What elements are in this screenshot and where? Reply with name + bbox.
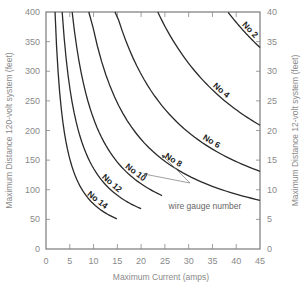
y-tick-label: 0 xyxy=(35,244,40,254)
y-tick-label: 150 xyxy=(25,155,40,165)
y2-tick-label: 5 xyxy=(267,214,272,224)
x-axis-title: Maximum Current (amps) xyxy=(113,272,210,282)
axis-labels: 0510152025303540450501001502002503003504… xyxy=(4,7,300,282)
y2-tick-label: 30 xyxy=(267,66,277,76)
x-tick-label: 35 xyxy=(207,256,217,266)
y-tick-label: 400 xyxy=(25,7,40,17)
y2-axis-title: Maximum Distance 12-volt system (feet) xyxy=(290,55,300,207)
x-tick-label: 40 xyxy=(231,256,241,266)
x-tick-label: 45 xyxy=(255,256,265,266)
curve-no-10 xyxy=(72,12,162,196)
y-tick-label: 50 xyxy=(30,214,40,224)
y-tick-label: 350 xyxy=(25,37,40,47)
y-tick-label: 250 xyxy=(25,96,40,106)
y2-tick-label: 25 xyxy=(267,96,277,106)
y2-tick-label: 20 xyxy=(267,126,277,136)
x-tick-label: 25 xyxy=(160,256,170,266)
y2-tick-label: 35 xyxy=(267,37,277,47)
y-axis-title: Maximum Distance 120-volt system (feet) xyxy=(4,52,14,209)
arrow-to-no10 xyxy=(144,174,190,183)
y2-tick-label: 40 xyxy=(267,7,277,17)
y2-tick-label: 10 xyxy=(267,185,277,195)
y-tick-label: 100 xyxy=(25,185,40,195)
x-tick-label: 30 xyxy=(184,256,194,266)
annotation-label: wire gauge number xyxy=(168,201,242,211)
wire-gauge-chart: No 14No 12No 10No 8No 6No 4No 2 05101520… xyxy=(0,0,306,290)
curve-label: No 6 xyxy=(201,132,222,150)
x-tick-label: 5 xyxy=(67,256,72,266)
curve-no-8 xyxy=(89,12,260,200)
x-tick-label: 0 xyxy=(43,256,48,266)
annotation: wire gauge number xyxy=(144,155,242,211)
y2-tick-label: 0 xyxy=(267,244,272,254)
y-tick-label: 300 xyxy=(25,66,40,76)
curve-label: No 4 xyxy=(211,80,232,100)
y2-tick-label: 15 xyxy=(267,155,277,165)
x-tick-label: 15 xyxy=(112,256,122,266)
curve-no-6 xyxy=(115,12,260,171)
y-tick-label: 200 xyxy=(25,126,40,136)
x-tick-label: 20 xyxy=(136,256,146,266)
gauge-curves: No 14No 12No 10No 8No 6No 4No 2 xyxy=(55,12,260,219)
x-tick-label: 10 xyxy=(89,256,99,266)
